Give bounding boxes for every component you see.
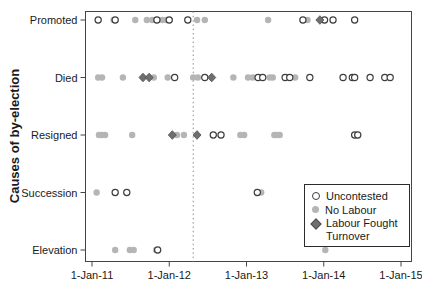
data-point-uncontested xyxy=(166,17,172,23)
data-point-uncontested xyxy=(218,132,224,138)
data-point-no-labour xyxy=(270,74,276,80)
data-point-uncontested xyxy=(307,74,313,80)
y-axis-title: Causes of by-election xyxy=(7,69,22,203)
data-point-uncontested xyxy=(300,17,306,23)
data-point-no-labour xyxy=(202,17,208,23)
data-point-labour-fought-turnover xyxy=(168,131,176,140)
data-point-no-labour xyxy=(322,247,328,253)
y-category-label: Succession xyxy=(21,187,77,199)
data-point-uncontested xyxy=(202,74,208,80)
legend-label: No Labour xyxy=(325,204,376,217)
y-category-label: Promoted xyxy=(30,14,78,26)
x-tick-label: 1-Jan-14 xyxy=(302,269,345,281)
chart-legend: Uncontested No Labour Labour Fought Turn… xyxy=(304,184,410,247)
data-point-no-labour xyxy=(265,17,271,23)
data-point-uncontested xyxy=(155,247,161,253)
data-point-no-labour xyxy=(102,132,108,138)
data-point-uncontested xyxy=(367,74,373,80)
legend-item-labour-fought-turnover: Labour Fought Turnover xyxy=(312,217,403,242)
data-point-no-labour xyxy=(131,247,137,253)
data-point-uncontested xyxy=(287,74,293,80)
data-point-uncontested xyxy=(352,17,358,23)
diamond-icon xyxy=(310,218,321,229)
data-point-no-labour xyxy=(93,189,99,195)
data-point-no-labour xyxy=(230,74,236,80)
x-tick-label: 1-Jan-11 xyxy=(71,269,114,281)
data-point-uncontested xyxy=(185,17,191,23)
data-point-uncontested xyxy=(260,74,266,80)
x-tick-label: 1-Jan-15 xyxy=(379,269,422,281)
data-point-uncontested xyxy=(172,74,178,80)
data-point-uncontested xyxy=(254,189,260,195)
data-point-no-labour xyxy=(132,17,138,23)
data-point-no-labour xyxy=(241,132,247,138)
data-point-no-labour xyxy=(195,74,201,80)
by-election-causes-scatter-chart: 1-Jan-111-Jan-121-Jan-131-Jan-141-Jan-15… xyxy=(0,0,422,296)
data-point-labour-fought-turnover xyxy=(208,73,216,82)
data-point-uncontested xyxy=(112,17,118,23)
data-point-no-labour xyxy=(165,74,171,80)
data-point-uncontested xyxy=(340,74,346,80)
data-point-no-labour xyxy=(120,74,126,80)
chart-canvas: 1-Jan-111-Jan-121-Jan-131-Jan-141-Jan-15… xyxy=(0,0,422,296)
data-point-uncontested xyxy=(112,189,118,195)
legend-label: Labour Fought Turnover xyxy=(326,217,403,242)
data-point-uncontested xyxy=(154,17,160,23)
data-point-no-labour xyxy=(112,247,118,253)
legend-label: Uncontested xyxy=(326,190,388,203)
y-category-label: Died xyxy=(55,72,78,84)
data-point-uncontested xyxy=(355,132,361,138)
data-point-uncontested xyxy=(387,74,393,80)
gray-circle-icon xyxy=(312,206,319,213)
data-point-labour-fought-turnover xyxy=(145,73,153,82)
data-point-uncontested xyxy=(95,17,101,23)
data-point-no-labour xyxy=(99,74,105,80)
y-category-label: Elevation xyxy=(32,244,77,256)
data-point-no-labour xyxy=(194,17,200,23)
legend-item-uncontested: Uncontested xyxy=(312,190,403,203)
x-tick-label: 1-Jan-12 xyxy=(148,269,191,281)
open-circle-icon xyxy=(312,192,320,200)
data-point-uncontested xyxy=(210,132,216,138)
data-point-uncontested xyxy=(124,189,130,195)
x-tick-label: 1-Jan-13 xyxy=(225,269,268,281)
y-category-label: Resigned xyxy=(31,129,77,141)
data-point-no-labour xyxy=(277,132,283,138)
legend-item-no-labour: No Labour xyxy=(312,204,403,217)
data-point-no-labour xyxy=(181,132,187,138)
data-point-uncontested xyxy=(330,17,336,23)
data-point-uncontested xyxy=(352,74,358,80)
data-point-no-labour xyxy=(129,132,135,138)
data-point-labour-fought-turnover xyxy=(193,131,201,140)
